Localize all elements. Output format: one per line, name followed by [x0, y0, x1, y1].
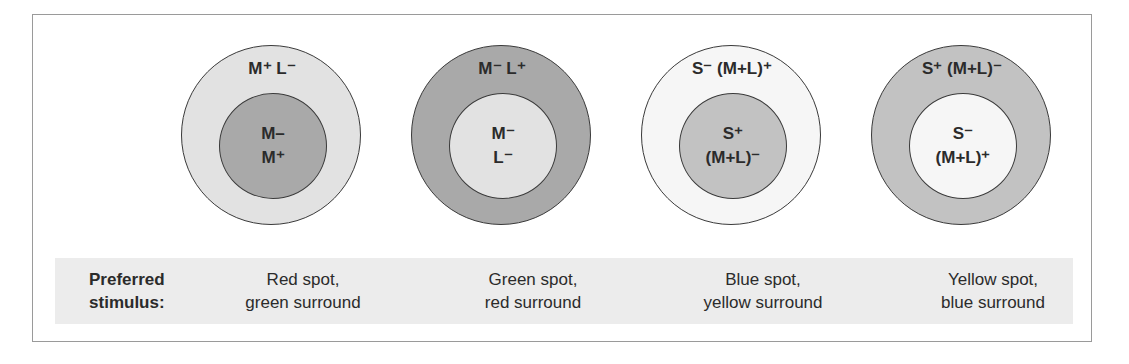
surround-label: M⁻ L⁺: [412, 58, 592, 79]
surround-circle: M⁻ L⁺ M⁻ L⁻: [411, 45, 591, 225]
receptive-field-green-red: M⁻ L⁺ M⁻ L⁻: [411, 45, 593, 227]
surround-label: S⁺ (M+L)⁻: [872, 58, 1052, 79]
preferred-label-line-1: Preferred: [89, 268, 165, 291]
preferred-stimulus-band: Preferred stimulus: Red spot, green surr…: [55, 258, 1073, 324]
stimulus-line-2: green surround: [203, 291, 403, 314]
center-circle: S⁻ (M+L)⁺: [909, 93, 1017, 199]
surround-label: M⁺ L⁻: [182, 58, 362, 79]
center-label-line-1: S⁺: [723, 122, 743, 146]
receptive-field-yellow-blue: S⁺ (M+L)⁻ S⁻ (M+L)⁺: [871, 45, 1053, 227]
stimulus-line-2: red surround: [433, 291, 633, 314]
stimulus-line-1: Yellow spot,: [893, 268, 1093, 291]
stimulus-line-2: yellow surround: [663, 291, 863, 314]
preferred-label-line-2: stimulus:: [89, 291, 165, 314]
center-label-line-2: M⁺: [261, 146, 284, 170]
center-circle: M– M⁺: [219, 93, 327, 199]
stimulus-yellow-blue: Yellow spot, blue surround: [893, 268, 1093, 314]
center-label-line-1: S⁻: [953, 122, 973, 146]
center-label-line-1: M⁻: [491, 122, 514, 146]
surround-circle: S⁻ (M+L)⁺ S⁺ (M+L)⁻: [641, 45, 821, 225]
surround-circle: M⁺ L⁻ M– M⁺: [181, 45, 361, 225]
stimulus-blue-yellow: Blue spot, yellow surround: [663, 268, 863, 314]
center-label-line-2: (M+L)⁻: [706, 146, 761, 170]
center-circle: S⁺ (M+L)⁻: [679, 93, 787, 199]
surround-circle: S⁺ (M+L)⁻ S⁻ (M+L)⁺: [871, 45, 1051, 225]
receptive-field-blue-yellow: S⁻ (M+L)⁺ S⁺ (M+L)⁻: [641, 45, 823, 227]
stimulus-line-1: Red spot,: [203, 268, 403, 291]
center-label-line-1: M–: [261, 122, 285, 146]
preferred-stimulus-label: Preferred stimulus:: [89, 268, 165, 314]
receptive-field-red-green: M⁺ L⁻ M– M⁺: [181, 45, 363, 227]
stimulus-red-green: Red spot, green surround: [203, 268, 403, 314]
stimulus-green-red: Green spot, red surround: [433, 268, 633, 314]
stimulus-line-1: Green spot,: [433, 268, 633, 291]
stimulus-line-2: blue surround: [893, 291, 1093, 314]
center-circle: M⁻ L⁻: [449, 93, 557, 199]
stimulus-line-1: Blue spot,: [663, 268, 863, 291]
surround-label: S⁻ (M+L)⁺: [642, 58, 822, 79]
figure-frame: M⁺ L⁻ M– M⁺ M⁻ L⁺ M⁻ L⁻ S⁻ (M+L)⁺ S⁺ (M+…: [32, 14, 1092, 342]
center-label-line-2: (M+L)⁺: [936, 146, 991, 170]
center-label-line-2: L⁻: [493, 146, 512, 170]
